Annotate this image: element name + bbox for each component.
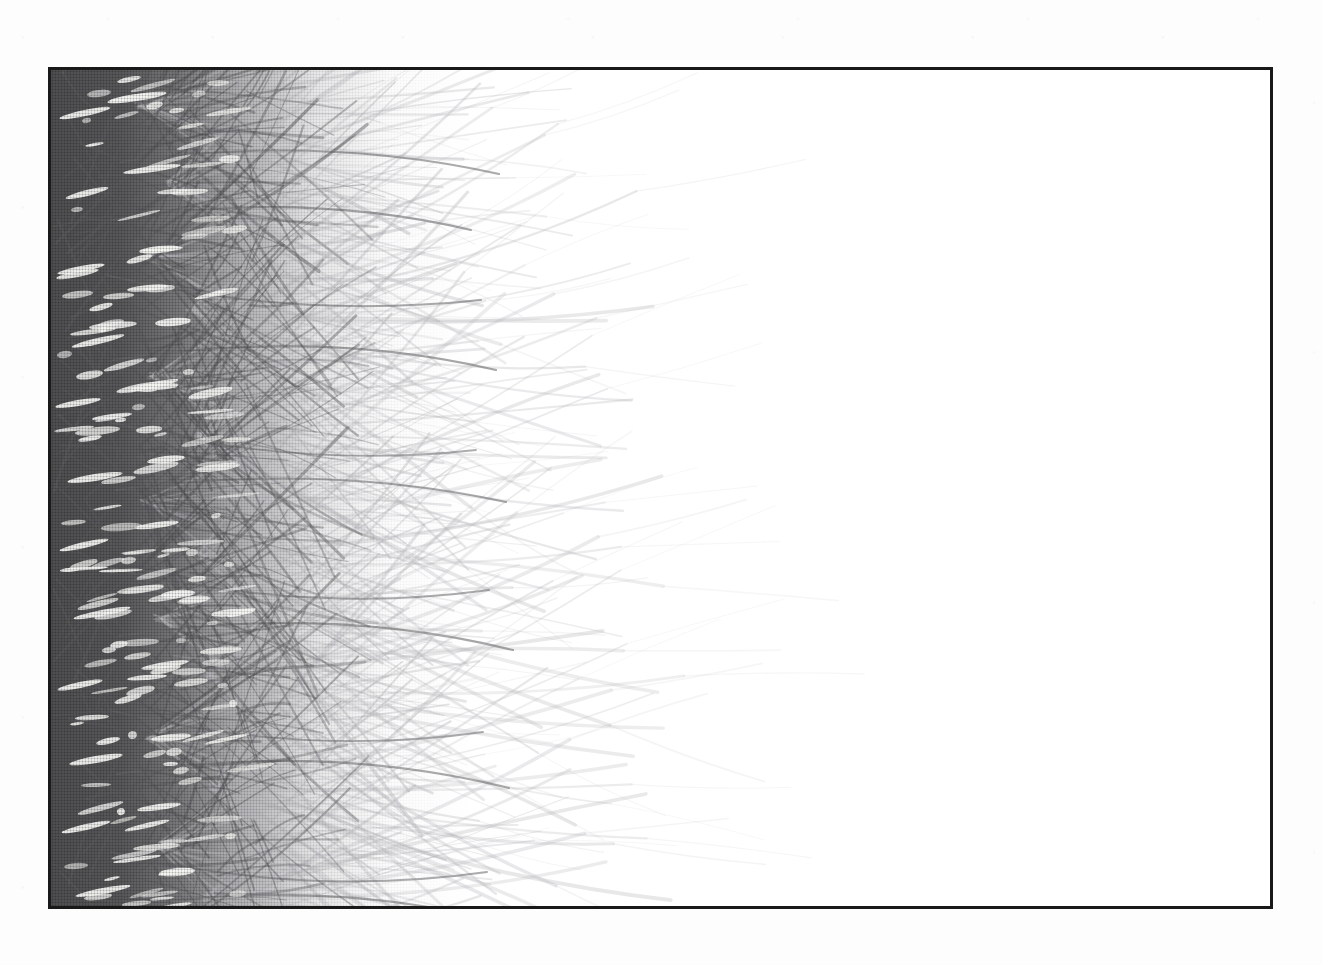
frond-blade bbox=[62, 71, 91, 107]
photograph-image bbox=[51, 70, 1270, 906]
frond-blade bbox=[123, 333, 181, 341]
scanned-page bbox=[0, 0, 1322, 965]
frond-blade bbox=[611, 663, 762, 690]
frond-blade bbox=[478, 328, 601, 341]
frond-blade bbox=[607, 343, 761, 388]
frond-blade bbox=[663, 586, 838, 600]
frond-blade bbox=[585, 367, 735, 387]
frond-blade bbox=[632, 784, 791, 788]
photo-plate-frame bbox=[48, 67, 1273, 909]
frond-blade bbox=[313, 73, 549, 171]
frond-blade bbox=[80, 70, 168, 72]
frond-blade bbox=[556, 886, 688, 906]
frond-blade bbox=[610, 725, 765, 781]
frond-blade bbox=[621, 506, 776, 571]
frond-blade bbox=[598, 500, 746, 537]
frond-blade bbox=[492, 70, 606, 108]
frond-blade bbox=[621, 542, 780, 547]
frond-blade bbox=[623, 650, 780, 651]
frond-blade bbox=[627, 599, 784, 644]
frond-blade bbox=[545, 90, 679, 135]
frond-blade bbox=[592, 274, 740, 335]
frond-blade bbox=[647, 838, 812, 858]
frond-blade bbox=[538, 753, 665, 816]
frond-blade-layer bbox=[51, 70, 1270, 906]
highlight-sliver bbox=[182, 368, 193, 375]
highlight-sliver bbox=[127, 730, 137, 739]
frond-blade bbox=[558, 73, 698, 124]
frond-blade bbox=[515, 174, 646, 178]
frond-blade bbox=[554, 258, 689, 294]
frond-blade bbox=[63, 70, 171, 73]
frond-blade bbox=[395, 70, 473, 82]
frond-blade bbox=[525, 214, 649, 265]
frond-blade bbox=[546, 217, 689, 230]
frond-blade bbox=[636, 160, 805, 192]
frond-blade bbox=[613, 844, 765, 865]
frond-blade bbox=[585, 819, 728, 834]
frond-blade bbox=[432, 279, 540, 289]
